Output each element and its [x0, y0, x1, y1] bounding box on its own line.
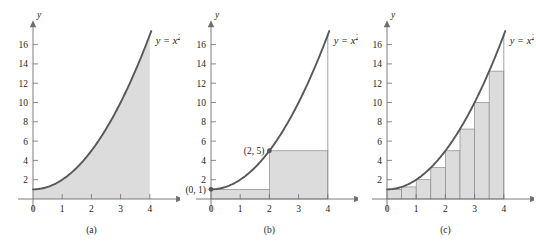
- y-axis-label: y: [214, 10, 220, 20]
- x-tick-label: 1: [60, 204, 65, 214]
- plot-a: xy01234246810121416y = x2 + 1(a): [0, 0, 180, 244]
- x-tick-label: 0: [209, 204, 214, 214]
- riemann-sum-figure: xy01234246810121416y = x2 + 1(a)xy012342…: [0, 0, 536, 244]
- y-tick-label: 8: [201, 117, 206, 127]
- riemann-rectangle: [402, 187, 417, 199]
- y-tick-label: 6: [23, 137, 28, 147]
- panel-caption: (c): [440, 225, 451, 236]
- y-tick-label: 10: [373, 98, 383, 108]
- y-tick-label: 14: [373, 59, 383, 69]
- y-tick-label: 12: [197, 79, 207, 89]
- x-tick-label: 4: [325, 204, 330, 214]
- panel-b: xy01234246810121416y = x2 + 1(0, 1)(2, 5…: [178, 0, 358, 244]
- y-tick-label: 14: [19, 59, 29, 69]
- y-tick-label: 2: [377, 175, 382, 185]
- x-tick-label: 0: [31, 204, 36, 214]
- riemann-rectangle: [269, 151, 327, 199]
- x-tick-label: 3: [296, 204, 301, 214]
- y-tick-label: 4: [23, 156, 28, 166]
- riemann-rectangle: [460, 129, 475, 199]
- y-axis-arrow-icon: [208, 20, 214, 27]
- riemann-rectangle: [387, 189, 402, 199]
- y-tick-label: 6: [201, 137, 206, 147]
- shaded-area-region: [33, 35, 150, 199]
- y-tick-label: 14: [197, 59, 207, 69]
- x-axis-arrow-icon: [530, 196, 534, 202]
- rectangle-group: [211, 151, 328, 199]
- y-tick-label: 8: [377, 117, 382, 127]
- panel-c: xy01234246810121416y = x2 + 1(c): [354, 0, 534, 244]
- plot-c: xy01234246810121416y = x2 + 1(c): [354, 0, 534, 244]
- riemann-rectangle: [489, 71, 504, 199]
- y-tick-label: 4: [377, 156, 382, 166]
- rectangle-group: [387, 71, 504, 199]
- x-tick-label: 0: [385, 204, 390, 214]
- y-axis-arrow-icon: [384, 20, 390, 27]
- x-tick-label: 1: [414, 204, 419, 214]
- y-tick-label: 6: [377, 137, 382, 147]
- y-tick-label: 10: [19, 98, 29, 108]
- y-axis-arrow-icon: [30, 20, 36, 27]
- y-tick-label: 10: [197, 98, 207, 108]
- y-axis-label: y: [36, 10, 42, 20]
- panel-caption: (a): [86, 225, 97, 236]
- panel-caption: (b): [264, 225, 275, 236]
- riemann-rectangle: [416, 180, 431, 199]
- y-tick-label: 16: [197, 40, 207, 50]
- y-tick-label: 12: [373, 79, 383, 89]
- y-tick-label: 4: [201, 156, 206, 166]
- x-tick-label: 2: [443, 204, 448, 214]
- y-tick-label: 16: [19, 40, 29, 50]
- plot-b: xy01234246810121416y = x2 + 1(0, 1)(2, 5…: [178, 0, 358, 244]
- y-tick-label: 2: [23, 175, 28, 185]
- x-tick-label: 4: [501, 204, 506, 214]
- point-marker: [209, 187, 214, 192]
- point-coordinate-label: (0, 1): [185, 185, 206, 196]
- riemann-rectangle: [431, 168, 446, 199]
- x-tick-label: 2: [89, 204, 94, 214]
- point-marker: [267, 148, 272, 153]
- x-tick-label: 2: [267, 204, 272, 214]
- riemann-rectangle: [445, 151, 460, 199]
- function-label: y = x2 + 1: [155, 33, 180, 46]
- x-tick-label: 1: [238, 204, 243, 214]
- riemann-rectangle: [475, 103, 490, 200]
- panel-a: xy01234246810121416y = x2 + 1(a): [0, 0, 180, 244]
- y-tick-label: 16: [373, 40, 383, 50]
- x-tick-label: 3: [118, 204, 123, 214]
- function-label: y = x2 + 1: [509, 33, 534, 46]
- x-tick-label: 3: [472, 204, 477, 214]
- x-tick-label: 4: [147, 204, 152, 214]
- y-tick-label: 12: [19, 79, 29, 89]
- y-axis-label: y: [390, 10, 396, 20]
- y-tick-label: 8: [23, 117, 28, 127]
- point-coordinate-label: (2, 5): [244, 146, 265, 157]
